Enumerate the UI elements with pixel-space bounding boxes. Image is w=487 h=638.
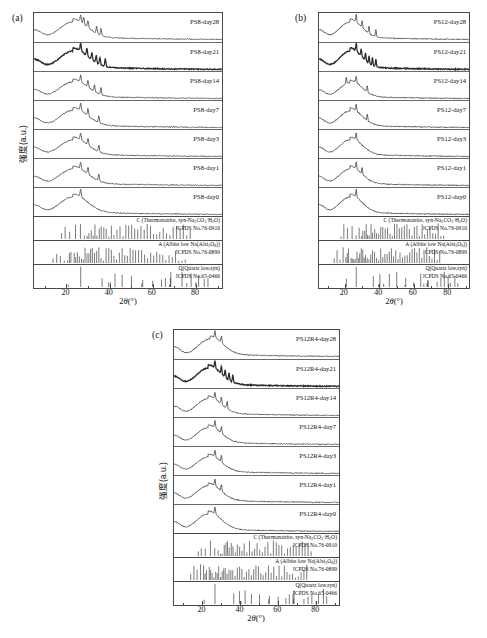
x-axis-tick-label: 40 [374,288,382,297]
trace-row: PS12R4-day3 [174,446,339,476]
panel-a-label: (a) [12,13,23,23]
panel-a-plot-frame: PS8-day28PS8-day21PS8-day14PS8-day7PS8-d… [33,12,223,289]
reference-pattern-name: Q(Quartz low,syn) [425,266,467,272]
reference-pattern-name: C (Thermonatrite, syn-Na2CO3·H2O) [253,535,337,541]
x-axis-tick-label: 40 [105,288,113,297]
x-axis-tick-label: 20 [340,288,348,297]
x-axis-minor-tick [221,603,222,606]
trace-row: PS8-day1 [34,158,222,188]
x-axis-minor-tick [131,286,132,289]
reference-pattern-thermonatrite: C (Thermonatrite, syn-Na2CO3·H2O)JCPDS N… [319,216,469,240]
x-axis-unit: (°) [128,296,137,306]
x-axis-tick-label: 80 [311,605,319,614]
reference-pattern-name: C (Thermonatrite, syn-Na2CO3·H2O) [383,218,467,224]
trace-row: PS8-day0 [34,187,222,217]
reference-pattern-card-number: JCPDS No.76-0910 [176,226,220,232]
trace-row: PS12-day3 [319,129,469,159]
curve-label: PS8-day0 [193,193,219,200]
curve-label: PS12-day21 [434,48,466,55]
curve-label: PS12R4-day7 [299,423,336,430]
reference-pattern-card-number: JCPDS No.76-0899 [423,250,467,256]
panel-c-plot-frame: PS12R4-day28PS12R4-day21PS12R4-day14PS12… [173,329,340,606]
reference-pattern-quartz: Q(Quartz low,syn)JCPDS No.65-0466 [34,264,222,288]
reference-pattern-card-number: JCPDS No.76-0899 [176,250,220,256]
reference-pattern-card-number: JCPDS No.76-0899 [293,567,337,573]
panel-a-y-axis-label: 强度(a.u.) [16,125,28,163]
x-axis-minor-tick [362,286,363,289]
x-axis-minor-tick [218,286,219,289]
x-axis-minor-tick [397,286,398,289]
curve-label: PS8-day14 [190,77,219,84]
x-axis-minor-tick [328,286,329,289]
reference-pattern-card-number: JCPDS No.76-0910 [423,226,467,232]
x-axis-tick-label: 40 [235,605,243,614]
reference-pattern-name: Q(Quartz low,syn) [295,583,337,589]
curve-label: PS8-day7 [193,106,219,113]
x-axis-minor-tick [466,286,467,289]
curve-label: PS12R4-day14 [296,394,336,401]
panel-b-plot-frame: PS12-day28PS12-day21PS12-day14PS12-day7P… [318,12,470,289]
curve-label: PS12R4-day21 [296,365,336,372]
x-axis-minor-tick [431,286,432,289]
trace-row: PS12R4-day21 [174,359,339,389]
curve-label: PS12-day28 [434,18,466,25]
reference-pattern-albite: A (Albite low Na(Alsi3O8))JCPDS No.76-08… [174,557,339,581]
reference-pattern-card-number: JCPDS No.76-0910 [293,543,337,549]
x-axis-tick-label: 80 [191,288,199,297]
x-axis-minor-tick [183,603,184,606]
x-axis-unit: (°) [394,296,403,306]
reference-pattern-quartz: Q(Quartz low,syn)JCPDS No.65-0466 [319,264,469,288]
trace-row: PS12-day0 [319,187,469,217]
x-axis-tick-label: 60 [409,288,417,297]
reference-pattern-name: A (Albite low Na(Alsi3O8)) [275,559,337,565]
trace-row: PS8-day3 [34,129,222,159]
trace-row: PS12-day1 [319,158,469,188]
curve-label: PS8-day21 [190,48,219,55]
trace-row: PS12-day7 [319,100,469,130]
reference-pattern-thermonatrite: C (Thermonatrite, syn-Na2CO3·H2O)JCPDS N… [174,533,339,557]
panel-c: (c) 强度(a.u.) PS12R4-day28PS12R4-day21PS1… [130,325,356,631]
reference-pattern-card-number: JCPDS No.65-0466 [423,274,467,280]
panel-b-traces: PS12-day28PS12-day21PS12-day14PS12-day7P… [319,13,469,288]
panel-a-traces: PS8-day28PS8-day21PS8-day14PS8-day7PS8-d… [34,13,222,288]
panel-c-x-axis-label: 2θ(°) [247,613,265,623]
trace-row: PS12R4-day1 [174,475,339,505]
reference-pattern-card-number: JCPDS No.65-0466 [176,274,220,280]
reference-pattern-name: Q(Quartz low,syn) [178,266,220,272]
curve-label: PS12R4-day1 [299,481,336,488]
reference-pattern-name: C (Thermonatrite, syn-Na2CO3·H2O) [136,218,220,224]
curve-label: PS12-day3 [437,135,466,142]
panel-b: (b) PS12-day28PS12-day21PS12-day14PS12-d… [255,8,481,308]
reference-pattern-name: A (Albite low Na(Alsi3O8)) [405,242,467,248]
trace-row: PS12R4-day28 [174,330,339,359]
x-axis-tick-label: 60 [148,288,156,297]
trace-row: PS12-day14 [319,71,469,101]
panel-a: (a) 强度(a.u.) PS8-day28PS8-day21PS8-day14… [8,8,230,308]
reference-pattern-name: A (Albite low Na(Alsi3O8)) [158,242,220,248]
panel-b-label: (b) [295,13,306,23]
trace-row: PS8-day21 [34,42,222,72]
x-axis-minor-tick [297,603,298,606]
curve-label: PS12-day7 [437,106,466,113]
panel-c-y-axis-label: 强度(a.u.) [156,462,168,500]
x-axis-minor-tick [88,286,89,289]
x-axis-minor-tick [174,286,175,289]
reference-pattern-thermonatrite: C (Thermonatrite, syn-Na2CO3·H2O)JCPDS N… [34,216,222,240]
trace-row: PS8-day7 [34,100,222,130]
curve-label: PS8-day3 [193,135,219,142]
curve-label: PS12R4-day28 [296,335,336,342]
trace-row: PS12R4-day14 [174,388,339,418]
panel-c-label: (c) [152,330,163,340]
x-axis-minor-tick [45,286,46,289]
reference-pattern-card-number: JCPDS No.65-0466 [293,591,337,597]
x-axis-minor-tick [335,603,336,606]
panel-a-x-axis-label: 2θ(°) [119,296,137,306]
x-axis-tick-label: 20 [61,288,69,297]
trace-row: PS12R4-day7 [174,417,339,447]
curve-label: PS8-day1 [193,164,219,171]
reference-pattern-albite: A (Albite low Na(Alsi3O8))JCPDS No.76-08… [319,240,469,264]
reference-pattern-albite: A (Albite low Na(Alsi3O8))JCPDS No.76-08… [34,240,222,264]
x-axis-minor-tick [259,603,260,606]
reference-pattern-quartz: Q(Quartz low,syn)JCPDS No.65-0466 [174,581,339,605]
x-axis-tick-label: 20 [197,605,205,614]
